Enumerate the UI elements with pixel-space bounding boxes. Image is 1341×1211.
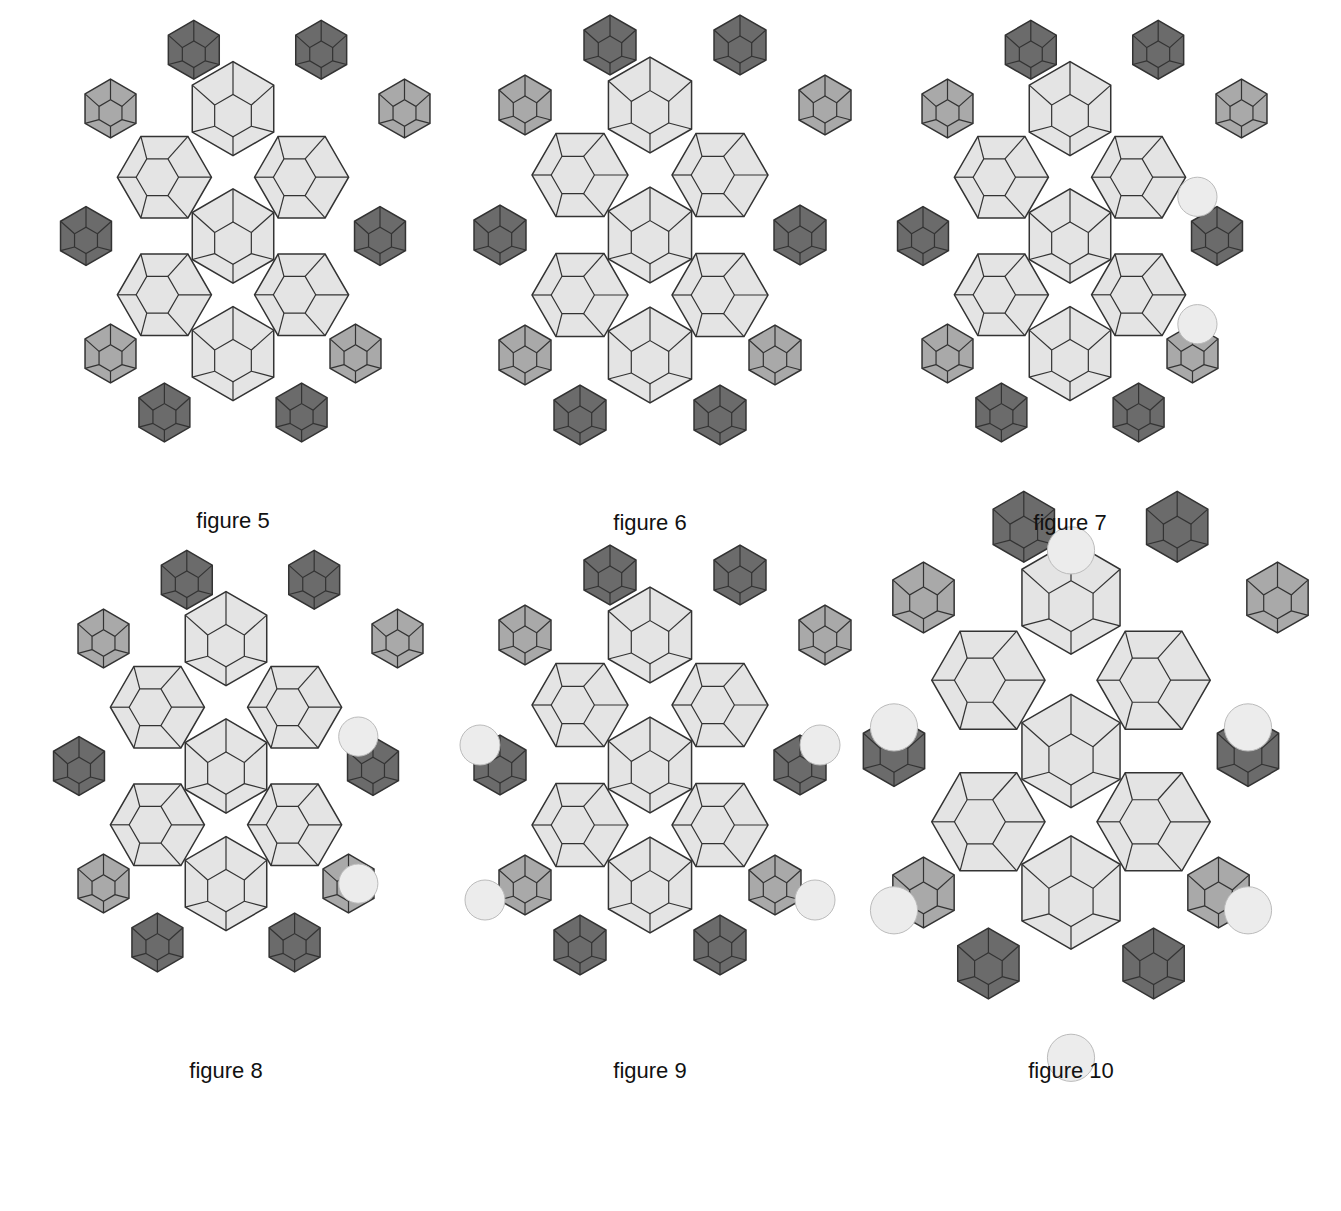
bicone-bead [296, 20, 347, 79]
bicone-bead [554, 385, 606, 445]
bicone-bead [117, 254, 211, 335]
pearl-bead [1224, 704, 1271, 751]
bicone-bead [269, 913, 320, 972]
bicone-bead [289, 550, 340, 609]
pearl-bead [870, 704, 917, 751]
bicone-bead [608, 307, 691, 403]
bicone-bead [110, 666, 204, 747]
bicone-bead [330, 324, 381, 383]
bicone-bead [1022, 836, 1120, 949]
bicone-bead [1133, 20, 1184, 79]
bicone-bead [532, 783, 628, 866]
bicone-bead [954, 136, 1048, 217]
pearl-bead [870, 887, 917, 934]
bicone-bead [474, 205, 526, 265]
bicone-bead [922, 324, 973, 383]
bicone-bead [532, 133, 628, 216]
bicone-bead [499, 855, 551, 915]
bicone-bead [1247, 562, 1308, 633]
bicone-bead [1097, 631, 1210, 729]
bicone-bead [749, 855, 801, 915]
bicone-bead [672, 663, 768, 746]
bicone-bead [694, 915, 746, 975]
caption-figure-9: figure 9 [500, 1058, 800, 1084]
bicone-bead [1029, 62, 1110, 156]
bicone-bead [355, 207, 406, 266]
pearl-bead [339, 717, 378, 756]
pearl-bead [1178, 177, 1217, 216]
bicone-bead [1097, 773, 1210, 871]
bicone-bead [1092, 254, 1186, 335]
bicone-bead [61, 207, 112, 266]
pearl-bead [339, 864, 378, 903]
bicone-bead [1113, 383, 1164, 442]
bicone-bead [139, 383, 190, 442]
caption-figure-8: figure 8 [76, 1058, 376, 1084]
bicone-bead [608, 587, 691, 683]
bicone-bead [799, 605, 851, 665]
bicone-bead [1005, 20, 1056, 79]
bicone-bead [192, 62, 273, 156]
bicone-bead [185, 592, 266, 686]
bicone-bead [248, 784, 342, 865]
pearl-bead [795, 880, 835, 920]
bicone-bead [248, 666, 342, 747]
bicone-bead [893, 562, 954, 633]
bicone-bead [192, 189, 273, 283]
bicone-bead [608, 837, 691, 933]
bicone-bead [922, 79, 973, 138]
bicone-bead [379, 79, 430, 138]
bicone-bead [714, 545, 766, 605]
bicone-bead [694, 385, 746, 445]
bicone-bead [499, 605, 551, 665]
bicone-bead [672, 253, 768, 336]
bicone-bead [85, 324, 136, 383]
bicone-bead [499, 325, 551, 385]
bicone-bead [672, 783, 768, 866]
caption-figure-5: figure 5 [83, 508, 383, 534]
bicone-bead [499, 75, 551, 135]
bicone-bead [255, 136, 349, 217]
pearl-bead [800, 725, 840, 765]
bicone-bead [255, 254, 349, 335]
bicone-bead [672, 133, 768, 216]
bicone-bead [608, 187, 691, 283]
bicone-bead [85, 79, 136, 138]
bicone-bead [1216, 79, 1267, 138]
beading-diagrams [0, 0, 1341, 1211]
bicone-bead [1092, 136, 1186, 217]
bicone-bead [192, 307, 273, 401]
bicone-bead [584, 545, 636, 605]
bicone-bead [532, 663, 628, 746]
bicone-bead [1123, 928, 1184, 999]
bicone-bead [932, 773, 1045, 871]
bicone-bead [799, 75, 851, 135]
bicone-bead [1029, 189, 1110, 283]
bicone-bead [276, 383, 327, 442]
bicone-bead [372, 609, 423, 668]
pearl-bead [1178, 305, 1217, 344]
bicone-bead [554, 915, 606, 975]
bicone-bead [898, 207, 949, 266]
bicone-bead [161, 550, 212, 609]
bicone-bead [976, 383, 1027, 442]
bicone-bead [54, 737, 105, 796]
diagram-page [0, 0, 1341, 1211]
bicone-bead [78, 854, 129, 913]
bicone-bead [714, 15, 766, 75]
bicone-bead [1029, 307, 1110, 401]
pearl-bead [465, 880, 505, 920]
bicone-bead [958, 928, 1019, 999]
bicone-bead [132, 913, 183, 972]
bicone-bead [185, 719, 266, 813]
bicone-bead [1022, 694, 1120, 807]
bicone-bead [117, 136, 211, 217]
caption-figure-6: figure 6 [500, 510, 800, 536]
bicone-bead [532, 253, 628, 336]
pearl-bead [460, 725, 500, 765]
bicone-bead [168, 20, 219, 79]
bicone-bead [584, 15, 636, 75]
bicone-bead [774, 205, 826, 265]
bicone-bead [954, 254, 1048, 335]
bicone-bead [110, 784, 204, 865]
